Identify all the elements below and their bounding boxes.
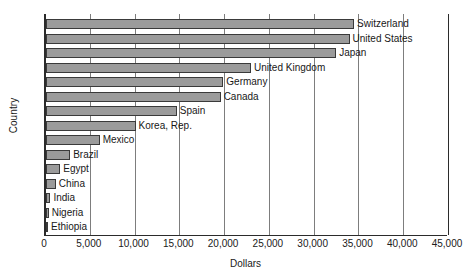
bar-label: Ethiopia xyxy=(51,220,87,234)
x-tick-label: 40,000 xyxy=(387,238,418,249)
x-tick-label: 25,000 xyxy=(253,238,284,249)
bar-row: China xyxy=(46,178,447,193)
bar xyxy=(46,222,48,232)
plot-area: SwitzerlandUnited StatesJapanUnited King… xyxy=(44,14,447,236)
x-tick-label: 0 xyxy=(41,238,47,249)
bar-label: Egypt xyxy=(63,162,89,176)
bar-label: Brazil xyxy=(73,148,98,162)
bar xyxy=(46,48,336,58)
bar-row: United States xyxy=(46,33,447,48)
x-axis-title: Dollars xyxy=(44,258,447,269)
bar xyxy=(46,63,251,73)
bar-row: Brazil xyxy=(46,149,447,164)
bar-label: Japan xyxy=(339,46,366,60)
bar-row: India xyxy=(46,192,447,207)
bar xyxy=(46,19,354,29)
bar-row: Ethiopia xyxy=(46,221,447,236)
bar xyxy=(46,150,70,160)
bar-row: Mexico xyxy=(46,134,447,149)
bar-label: Switzerland xyxy=(357,17,409,31)
bar xyxy=(46,121,136,131)
bar-label: Canada xyxy=(224,90,259,104)
bar-label: United States xyxy=(353,32,413,46)
y-axis-title: Country xyxy=(8,81,19,151)
bar xyxy=(46,135,100,145)
x-tick-label: 35,000 xyxy=(342,238,373,249)
bar xyxy=(46,208,49,218)
x-tick-label: 10,000 xyxy=(118,238,149,249)
bar xyxy=(46,164,60,174)
bar-chart: Country SwitzerlandUnited StatesJapanUni… xyxy=(0,0,475,280)
bar xyxy=(46,193,50,203)
bar-label: Nigeria xyxy=(52,206,84,220)
bars-layer: SwitzerlandUnited StatesJapanUnited King… xyxy=(46,14,447,235)
gridline xyxy=(448,14,449,235)
x-axis-tick-labels: 05,00010,00015,00020,00025,00030,00035,0… xyxy=(0,238,475,254)
bar-label: Korea, Rep. xyxy=(139,119,192,133)
bar-row: Spain xyxy=(46,105,447,120)
bar-row: Germany xyxy=(46,76,447,91)
x-tick-label: 5,000 xyxy=(76,238,101,249)
bar-label: United Kingdom xyxy=(254,61,325,75)
bar-row: Egypt xyxy=(46,163,447,178)
x-tick-label: 45,000 xyxy=(432,238,463,249)
bar-row: Canada xyxy=(46,91,447,106)
bar-label: India xyxy=(53,191,75,205)
bar-row: Japan xyxy=(46,47,447,62)
bar-row: United Kingdom xyxy=(46,62,447,77)
bar-label: Germany xyxy=(226,75,267,89)
x-tick-label: 15,000 xyxy=(163,238,194,249)
bar-label: Spain xyxy=(180,104,206,118)
bar xyxy=(46,179,56,189)
bar xyxy=(46,77,223,87)
bar-row: Korea, Rep. xyxy=(46,120,447,135)
bar-label: Mexico xyxy=(103,133,135,147)
bar xyxy=(46,106,177,116)
x-tick-label: 20,000 xyxy=(208,238,239,249)
bar-label: China xyxy=(59,177,85,191)
bar xyxy=(46,34,350,44)
bar xyxy=(46,92,221,102)
bar-row: Switzerland xyxy=(46,18,447,33)
bar-row: Nigeria xyxy=(46,207,447,222)
x-tick-label: 30,000 xyxy=(297,238,328,249)
